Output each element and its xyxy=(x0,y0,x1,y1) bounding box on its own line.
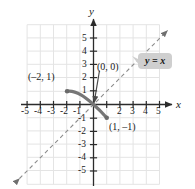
y-tick-label-5: 5 xyxy=(82,34,87,44)
x-axis-label: x xyxy=(176,99,181,110)
y-axis-label: y xyxy=(89,6,94,17)
curve-endpoint-left xyxy=(65,89,70,94)
x-tick-label-4: 4 xyxy=(143,107,148,117)
x-tick-label-3: 3 xyxy=(130,107,135,117)
x-tick-label--3: -3 xyxy=(47,107,55,117)
graph-figure: y x -5 -4 -3 -2 -1 2 3 4 5 5 4 3 2 1 -1 … xyxy=(0,0,195,189)
y-tick-label--5: -5 xyxy=(78,166,86,176)
y-tick-label--1: -1 xyxy=(78,114,86,124)
x-tick-label--4: -4 xyxy=(34,107,42,117)
x-tick-label--5: -5 xyxy=(21,107,29,117)
y-tick-label-1: 1 xyxy=(82,86,87,96)
y-tick-label-4: 4 xyxy=(82,47,87,57)
y-tick-label--3: -3 xyxy=(78,140,86,150)
x-tick-label-5: 5 xyxy=(156,107,161,117)
annotation-point-1-minus1: (1, –1) xyxy=(109,122,136,132)
origin-annotation-arrow xyxy=(94,71,99,103)
y-tick-label--2: -2 xyxy=(78,127,86,137)
y-tick-label--4: -4 xyxy=(78,153,86,163)
x-tick-label-2: 2 xyxy=(117,107,122,117)
plot-canvas xyxy=(0,0,195,189)
y-tick-label-3: 3 xyxy=(82,60,87,70)
x-tick-label--2: -2 xyxy=(60,107,68,117)
curve-endpoint-right xyxy=(104,115,109,120)
annotation-point-minus2-1: (–2, 1) xyxy=(28,72,55,82)
annotation-point-origin: (0, 0) xyxy=(97,62,119,72)
y-tick-label-2: 2 xyxy=(82,73,87,83)
line-equation-callout: y = x xyxy=(138,53,172,69)
